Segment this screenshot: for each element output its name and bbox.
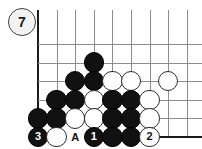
white-stone-r2c4[interactable] — [102, 71, 122, 91]
grid-line-horizontal — [38, 44, 202, 45]
black-stone-r4c1[interactable] — [46, 108, 66, 128]
figure-number-label: 7 — [18, 14, 26, 30]
white-stone-r4c6[interactable] — [139, 108, 159, 128]
white-stone-r4c3[interactable] — [84, 108, 104, 128]
move-number-label: 2 — [140, 128, 158, 146]
black-stone-move-3[interactable]: 3 — [28, 127, 48, 147]
white-stone-r5c1[interactable] — [46, 127, 66, 147]
black-stone-r5c5[interactable] — [121, 127, 141, 147]
black-stone-r3c1[interactable] — [46, 90, 66, 110]
black-stone-r3c5[interactable] — [121, 90, 141, 110]
grid-line-horizontal — [38, 63, 202, 64]
black-stone-r5c4[interactable] — [102, 127, 122, 147]
figure-number-badge: 7 — [8, 8, 36, 36]
move-number-label: 1 — [85, 128, 103, 146]
black-stone-r4c5[interactable] — [121, 108, 141, 128]
black-stone-move-1[interactable]: 1 — [84, 127, 104, 147]
black-stone-r3c4[interactable] — [102, 90, 122, 110]
black-stone-r4c0[interactable] — [28, 108, 48, 128]
go-diagram: A312 7 — [0, 0, 202, 149]
black-stone-r1c3[interactable] — [84, 52, 104, 72]
black-stone-r3c2[interactable] — [65, 90, 85, 110]
black-stone-r2c2[interactable] — [65, 71, 85, 91]
white-stone-r4c2[interactable] — [65, 108, 85, 128]
white-stone-r3c6[interactable] — [139, 90, 159, 110]
white-stone-r2c7[interactable] — [158, 71, 178, 91]
move-number-label: 3 — [29, 128, 47, 146]
white-stone-r2c5[interactable] — [121, 71, 141, 91]
black-stone-r4c4[interactable] — [102, 108, 122, 128]
white-stone-move-2[interactable]: 2 — [139, 127, 159, 147]
point-marker-A[interactable]: A — [65, 127, 85, 147]
black-stone-r2c3[interactable] — [84, 71, 104, 91]
white-stone-r3c3[interactable] — [84, 90, 104, 110]
